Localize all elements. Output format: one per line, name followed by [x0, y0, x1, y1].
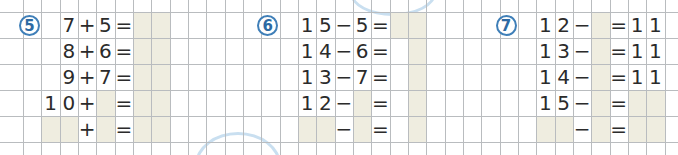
equation-symbol: + — [78, 90, 96, 116]
answer-box[interactable] — [151, 116, 169, 142]
answer-box[interactable] — [151, 38, 169, 64]
grid-vertical-line — [463, 0, 464, 155]
grid-vertical-line — [390, 0, 391, 155]
equation-symbol: 1 — [298, 64, 316, 90]
equation-symbol: 4 — [555, 64, 573, 90]
equation-symbol: 5 — [96, 12, 114, 38]
answer-box[interactable] — [408, 38, 426, 64]
exercise-number-badge: 7 — [496, 15, 517, 36]
answer-box[interactable] — [151, 90, 169, 116]
equation-symbol: 3 — [316, 64, 334, 90]
answer-box[interactable] — [591, 116, 609, 142]
grid-vertical-line — [41, 0, 42, 155]
grid-vertical-line — [243, 0, 244, 155]
answer-box[interactable] — [353, 90, 371, 116]
grid-vertical-line — [665, 0, 666, 155]
grid-vertical-line — [206, 0, 207, 155]
equation-symbol: = — [610, 64, 628, 90]
equation-symbol: = — [115, 116, 133, 142]
equation-symbol: − — [573, 12, 591, 38]
equation-symbol: 6 — [353, 38, 371, 64]
equation-symbol: 7 — [60, 12, 78, 38]
equation-symbol: = — [371, 90, 389, 116]
equation-symbol: 9 — [60, 64, 78, 90]
grid-vertical-line — [170, 0, 171, 155]
answer-box[interactable] — [96, 90, 114, 116]
equation-symbol: − — [335, 64, 353, 90]
answer-box[interactable] — [151, 64, 169, 90]
answer-box[interactable] — [628, 116, 646, 142]
equation-symbol: = — [371, 38, 389, 64]
answer-box[interactable] — [628, 90, 646, 116]
equation-symbol: 4 — [316, 38, 334, 64]
equation-symbol: 5 — [316, 12, 334, 38]
equation-symbol: 1 — [298, 38, 316, 64]
answer-box[interactable] — [133, 116, 151, 142]
answer-box[interactable] — [353, 116, 371, 142]
answer-box[interactable] — [151, 12, 169, 38]
equation-symbol: = — [115, 90, 133, 116]
grid-vertical-line — [445, 0, 446, 155]
answer-box[interactable] — [133, 38, 151, 64]
answer-box[interactable] — [390, 12, 408, 38]
equation-symbol: = — [371, 12, 389, 38]
equation-symbol: = — [115, 12, 133, 38]
equation-symbol: 1 — [628, 64, 646, 90]
equation-symbol: = — [610, 116, 628, 142]
equation-symbol: = — [610, 38, 628, 64]
answer-box[interactable] — [408, 12, 426, 38]
equation-symbol: 1 — [41, 90, 59, 116]
equation-symbol: 2 — [555, 12, 573, 38]
equation-symbol: 5 — [555, 90, 573, 116]
answer-box[interactable] — [591, 12, 609, 38]
answer-box[interactable] — [133, 90, 151, 116]
equation-symbol: 1 — [298, 12, 316, 38]
equation-symbol: − — [573, 116, 591, 142]
grid-vertical-line — [426, 0, 427, 155]
equation-symbol: 1 — [298, 90, 316, 116]
equation-symbol: 1 — [646, 12, 664, 38]
grid-vertical-line — [225, 0, 226, 155]
equation-symbol: 1 — [628, 12, 646, 38]
equation-symbol: = — [371, 64, 389, 90]
equation-symbol: + — [78, 64, 96, 90]
equation-symbol: − — [335, 38, 353, 64]
grid-vertical-line — [280, 0, 281, 155]
equation-symbol: 1 — [536, 38, 554, 64]
answer-box[interactable] — [133, 12, 151, 38]
answer-box[interactable] — [316, 116, 334, 142]
answer-box[interactable] — [646, 116, 664, 142]
answer-box[interactable] — [555, 116, 573, 142]
equation-symbol: 0 — [60, 90, 78, 116]
grid-vertical-line — [518, 0, 519, 155]
equation-symbol: + — [78, 116, 96, 142]
equation-symbol: 2 — [316, 90, 334, 116]
equation-symbol: 1 — [628, 38, 646, 64]
answer-box[interactable] — [591, 38, 609, 64]
equation-symbol: − — [573, 38, 591, 64]
answer-box[interactable] — [591, 90, 609, 116]
answer-box[interactable] — [408, 116, 426, 142]
equation-symbol: 8 — [60, 38, 78, 64]
equation-symbol: + — [78, 38, 96, 64]
answer-box[interactable] — [408, 64, 426, 90]
answer-box[interactable] — [133, 64, 151, 90]
equation-symbol: 1 — [536, 64, 554, 90]
answer-box[interactable] — [646, 90, 664, 116]
answer-box[interactable] — [298, 116, 316, 142]
equation-symbol: 6 — [96, 38, 114, 64]
equation-symbol: − — [573, 64, 591, 90]
answer-box[interactable] — [536, 116, 554, 142]
equation-symbol: 1 — [536, 12, 554, 38]
exercise-number-badge: 5 — [19, 15, 40, 36]
answer-box[interactable] — [408, 90, 426, 116]
equation-symbol: − — [335, 90, 353, 116]
answer-box[interactable] — [96, 116, 114, 142]
answer-box[interactable] — [591, 64, 609, 90]
answer-box[interactable] — [41, 116, 59, 142]
math-worksheet: 57+5=8+6=9+7=10+=+=615−5=14−6=13−7=12−=−… — [0, 0, 678, 155]
answer-box[interactable] — [60, 116, 78, 142]
grid-vertical-line — [591, 0, 592, 155]
equation-symbol: 5 — [353, 12, 371, 38]
exercise-number-badge: 6 — [257, 15, 278, 36]
